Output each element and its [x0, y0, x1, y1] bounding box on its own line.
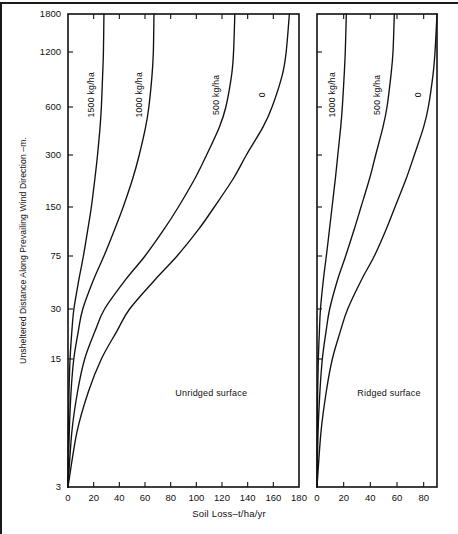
series-label: 1000 kg/ha	[327, 72, 337, 118]
x-tick-label: 60	[392, 492, 403, 503]
series-label: 1000 kg/ha	[134, 72, 144, 118]
y-tick-label: 1800	[40, 8, 61, 19]
x-tick-label: 120	[214, 492, 230, 503]
series-label: 500 kg/ha	[372, 75, 382, 115]
series-curve	[68, 14, 289, 487]
panel-caption: Ridged surface	[357, 388, 420, 398]
x-tick-label: 0	[65, 492, 70, 503]
x-tick-label: 180	[291, 492, 307, 503]
x-tick-label: 80	[418, 492, 429, 503]
series-label: 500 kg/ha	[211, 75, 221, 115]
y-tick-label: 1200	[40, 46, 61, 57]
y-tick-label: 600	[45, 101, 61, 112]
series-label: 0	[257, 92, 267, 97]
x-tick-label: 40	[114, 492, 125, 503]
y-tick-label: 3	[56, 481, 61, 492]
y-tick-label: 75	[50, 250, 61, 261]
x-tick-label: 40	[365, 492, 376, 503]
series-label: 0	[413, 92, 423, 97]
y-axis-title: Unsheltered Distance Along Prevailing Wi…	[18, 137, 28, 364]
x-tick-label: 20	[338, 492, 349, 503]
x-tick-label: 0	[314, 492, 319, 503]
x-tick-label: 140	[240, 492, 256, 503]
x-tick-label: 100	[188, 492, 204, 503]
panel-caption: Unridged surface	[175, 388, 247, 398]
series-label: 1500 kg/ha	[86, 72, 96, 118]
figure-container: 315307515030060012001800Unsheltered Dist…	[0, 0, 458, 534]
y-tick-label: 150	[45, 201, 61, 212]
y-tick-label: 30	[50, 303, 61, 314]
x-tick-label: 80	[165, 492, 176, 503]
x-tick-label: 20	[88, 492, 99, 503]
chart-svg: 315307515030060012001800Unsheltered Dist…	[0, 0, 458, 534]
x-axis-title: Soil Loss–t/ha/yr	[192, 508, 266, 519]
y-tick-label: 300	[45, 149, 61, 160]
x-tick-label: 160	[265, 492, 281, 503]
x-tick-label: 60	[140, 492, 151, 503]
y-tick-label: 15	[50, 353, 61, 364]
